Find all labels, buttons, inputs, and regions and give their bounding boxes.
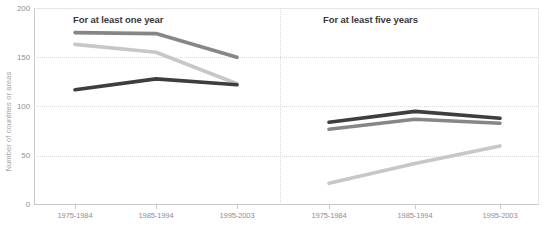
chart-lines-layer bbox=[0, 0, 543, 230]
panel-0-dark-line bbox=[75, 79, 237, 90]
dual-panel-line-chart: Number of countries or areas 200 150 100… bbox=[0, 0, 543, 230]
panel-1-light-gray-line bbox=[329, 146, 500, 183]
